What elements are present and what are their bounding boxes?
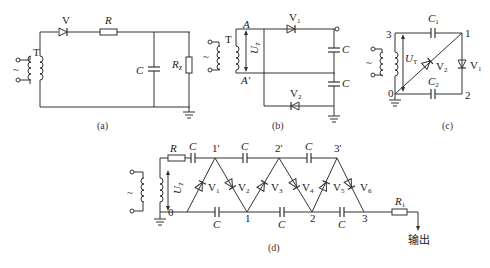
ac-source-label: ~ (13, 63, 19, 75)
capacitor-label: C (278, 218, 286, 230)
resistor-in-icon (168, 155, 185, 161)
node-label: 3 (362, 212, 368, 224)
capacitor-label: C (241, 140, 249, 152)
resistor-icon (100, 29, 117, 35)
transformer-primary-icon (380, 52, 383, 76)
capacitor-c1-label: C1 (428, 12, 439, 26)
caption-c: (c) (442, 120, 453, 132)
ac-source-label: ~ (366, 56, 372, 68)
ac-source-label: ~ (203, 50, 209, 62)
voltage-label: UT (248, 41, 262, 54)
ground-icon (328, 116, 340, 122)
node-a-prime-label: A' (240, 74, 251, 86)
resistor-label: R (104, 14, 112, 26)
transformer-label: T (33, 46, 40, 58)
capacitor-c2-label: C2 (428, 75, 439, 89)
output-label: 输出 (408, 233, 430, 247)
node-label: 1' (212, 142, 220, 154)
node-label: 2 (310, 212, 316, 224)
diode-v2-label: V2 (436, 60, 448, 74)
diode-v1-label: V1 (470, 59, 482, 73)
transformer-primary-icon (217, 46, 220, 70)
load-label: Rz (171, 58, 183, 72)
panel-d: ~ R C C C 1' 2' 3' C C (127, 140, 430, 254)
capacitor-top-label: C (342, 43, 350, 55)
node-3-label: 3 (386, 28, 392, 40)
node-label: 2' (275, 142, 283, 154)
transformer-secondary-icon (236, 46, 239, 70)
panel-b: ~ T A A' UT V1 C C V2 (b) (203, 11, 350, 132)
ac-source-label: ~ (127, 186, 133, 198)
transformer-secondary-icon (160, 178, 163, 202)
voltage-label: UT (405, 52, 418, 66)
panel-c: ~ 3 0 C1 1 C2 2 V2 V1 UT (c) (366, 12, 482, 132)
transformer-label: T (225, 33, 232, 45)
panel-a: ~ T V R C Rz (a) (13, 14, 195, 132)
ground-icon (183, 112, 195, 118)
node-a-label: A (242, 18, 250, 30)
node-label: 3' (334, 142, 342, 154)
ground-icon (154, 219, 166, 225)
capacitor-bottom-label: C (342, 77, 350, 89)
node-1-label: 1 (465, 27, 471, 39)
resistor-in-label: R (169, 142, 177, 154)
caption-a: (a) (97, 120, 108, 132)
diode-label: V1 (208, 181, 220, 195)
terminal-icon (16, 58, 20, 62)
node-0-label: 0 (388, 87, 394, 99)
capacitor-label: C (189, 140, 197, 152)
resistor-out-icon (392, 209, 407, 215)
transformer-secondary-icon (395, 52, 398, 76)
transformer-primary-icon (141, 178, 144, 202)
diode-label: V4 (302, 181, 314, 195)
diode-v1-label: V1 (289, 11, 301, 25)
caption-b: (b) (272, 120, 284, 132)
diode-v2-label: V2 (290, 87, 302, 101)
diode-label: V3 (271, 181, 283, 195)
terminal-icon (16, 78, 20, 82)
transformer-secondary-icon (40, 56, 43, 80)
diode-label: V (62, 14, 70, 26)
capacitor-label: C (305, 140, 313, 152)
caption-d: (d) (268, 242, 280, 254)
voltage-label: UT (171, 181, 185, 194)
diode-label: V6 (360, 181, 372, 195)
load-resistor-icon (186, 57, 192, 73)
ground-icon (389, 100, 401, 106)
resistor-out-label: R1 (394, 195, 406, 209)
node-label: 1 (245, 212, 251, 224)
capacitor-label: C (213, 218, 221, 230)
node-2-label: 2 (465, 89, 471, 101)
capacitor-label: C (338, 218, 346, 230)
diode-icon (59, 28, 67, 36)
capacitor-label: C (136, 64, 144, 76)
output-arrow-icon (416, 226, 420, 231)
circuit-figure: ~ T V R C Rz (a) ~ T (0, 0, 490, 268)
diode-label: V2 (238, 181, 250, 195)
diode-label: V5 (333, 181, 345, 195)
